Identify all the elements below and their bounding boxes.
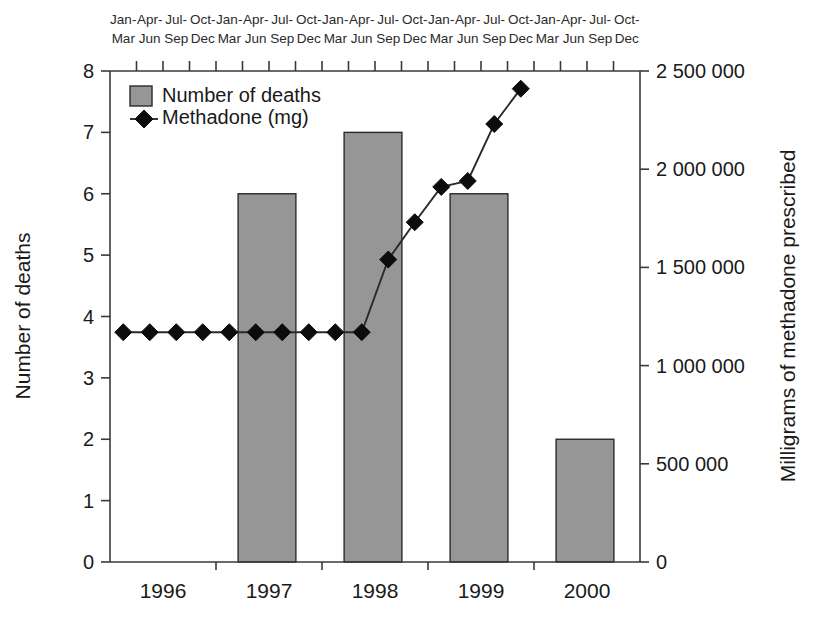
legend-swatch-deaths: [130, 86, 152, 106]
year-label-2000: 2000: [564, 579, 611, 602]
bar-1998: [344, 132, 402, 562]
right-tick-label: 500 000: [656, 453, 728, 475]
bars-layer: [238, 132, 614, 562]
left-tick-label: 5: [83, 244, 94, 266]
quarter-labels: Jan-MarApr-JunJul-SepOct-DecJan-MarApr-J…: [110, 12, 639, 46]
quarter-label-bottom: Mar: [324, 31, 348, 46]
quarter-label-bottom: Mar: [430, 31, 454, 46]
quarter-label-top: Apr-: [243, 12, 269, 27]
legend-label-methadone: Methadone (mg): [162, 106, 309, 128]
left-tick-label: 8: [83, 60, 94, 82]
quarter-label-top: Apr-: [349, 12, 375, 27]
year-label-1996: 1996: [140, 579, 187, 602]
quarter-label-top: Jul-: [589, 12, 611, 27]
legend-label-deaths: Number of deaths: [162, 84, 321, 106]
legend-diamond-icon: [135, 110, 153, 128]
left-tick-label: 6: [83, 183, 94, 205]
quarter-label-bottom: Mar: [536, 31, 560, 46]
methadone-point-marker: [115, 324, 132, 341]
top-axis-ticks: [137, 61, 614, 71]
quarter-label-top: Jan-: [322, 12, 348, 27]
left-tick-label: 7: [83, 121, 94, 143]
methadone-point-marker: [221, 324, 238, 341]
quarter-label-top: Oct-: [296, 12, 322, 27]
quarter-label-top: Jul-: [377, 12, 399, 27]
left-tick-label: 1: [83, 490, 94, 512]
left-tick-label: 0: [83, 551, 94, 573]
quarter-label-top: Oct-: [402, 12, 428, 27]
quarter-label-top: Jul-: [271, 12, 293, 27]
quarter-label-top: Jul-: [483, 12, 505, 27]
right-tick-label: 2 000 000: [656, 158, 745, 180]
right-axis-ticks: 0500 0001 000 0001 500 0002 000 0002 500…: [640, 60, 745, 573]
quarter-label-top: Apr-: [137, 12, 163, 27]
year-labels: 19961997199819992000: [140, 562, 611, 602]
methadone-point-marker: [459, 172, 476, 189]
chart-legend: Number of deaths Methadone (mg): [130, 84, 321, 128]
quarter-label-top: Oct-: [614, 12, 640, 27]
right-tick-label: 2 500 000: [656, 60, 745, 82]
quarter-label-bottom: Dec: [297, 31, 321, 46]
methadone-point-marker: [168, 324, 185, 341]
quarter-label-bottom: Dec: [191, 31, 215, 46]
quarter-label-bottom: Jun: [351, 31, 373, 46]
methadone-point-marker: [300, 324, 317, 341]
right-tick-label: 1 000 000: [656, 355, 745, 377]
quarter-label-top: Oct-: [190, 12, 216, 27]
year-label-1999: 1999: [458, 579, 505, 602]
year-label-1997: 1997: [246, 579, 293, 602]
quarter-label-bottom: Dec: [403, 31, 427, 46]
quarter-label-top: Jan-: [216, 12, 242, 27]
right-tick-label: 0: [656, 551, 667, 573]
quarter-label-bottom: Sep: [588, 31, 612, 46]
left-axis-ticks: 012345678: [83, 60, 110, 573]
quarter-label-bottom: Sep: [164, 31, 188, 46]
bar-1997: [238, 194, 296, 562]
chart-figure: 012345678 0500 0001 000 0001 500 0002 00…: [0, 0, 819, 620]
methadone-point-marker: [141, 324, 158, 341]
quarter-label-bottom: Sep: [482, 31, 506, 46]
methadone-point-marker: [327, 324, 344, 341]
quarter-label-top: Jan-: [534, 12, 560, 27]
quarter-label-bottom: Sep: [376, 31, 400, 46]
quarter-label-top: Oct-: [508, 12, 534, 27]
methadone-point-marker: [512, 80, 529, 97]
year-label-1998: 1998: [352, 579, 399, 602]
quarter-label-bottom: Jun: [457, 31, 479, 46]
left-axis-title: Number of deaths: [11, 233, 34, 400]
quarter-label-bottom: Mar: [218, 31, 242, 46]
quarter-label-bottom: Jun: [563, 31, 585, 46]
right-axis-title: Milligrams of methadone prescribed: [776, 150, 799, 483]
left-tick-label: 4: [83, 306, 94, 328]
quarter-label-bottom: Mar: [112, 31, 136, 46]
quarter-label-bottom: Dec: [615, 31, 639, 46]
quarter-label-bottom: Jun: [139, 31, 161, 46]
quarter-label-bottom: Sep: [270, 31, 294, 46]
bar-1999: [450, 194, 508, 562]
methadone-point-marker: [433, 178, 450, 195]
methadone-point-marker: [486, 116, 503, 133]
quarter-label-top: Jan-: [110, 12, 136, 27]
methadone-point-marker: [194, 324, 211, 341]
quarter-label-top: Jul-: [165, 12, 187, 27]
quarter-label-top: Apr-: [561, 12, 587, 27]
quarter-label-top: Jan-: [428, 12, 454, 27]
methadone-point-marker: [406, 214, 423, 231]
quarter-label-bottom: Jun: [245, 31, 267, 46]
left-tick-label: 2: [83, 428, 94, 450]
quarter-label-top: Apr-: [455, 12, 481, 27]
quarter-label-bottom: Dec: [509, 31, 533, 46]
right-tick-label: 1 500 000: [656, 256, 745, 278]
left-tick-label: 3: [83, 367, 94, 389]
chart-svg: 012345678 0500 0001 000 0001 500 0002 00…: [0, 0, 819, 620]
bar-2000: [556, 439, 614, 562]
